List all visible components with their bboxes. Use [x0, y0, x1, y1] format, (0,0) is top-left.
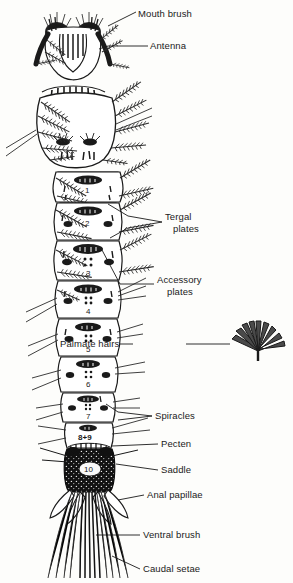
leader-mouth-brush [108, 12, 136, 26]
label-caudal-setae: Caudal setae [143, 563, 200, 574]
segment-number-8-9: 8+9 [78, 432, 92, 443]
label-antenna: Antenna [150, 40, 186, 51]
palmate-hair-detail [232, 321, 285, 361]
label-spiracles: Spiracles [155, 410, 195, 421]
label-palmate-hairs-plain: Palmate [60, 338, 98, 349]
label-tergal-plates: Tergal plates [165, 211, 199, 235]
thorax-group [6, 80, 152, 170]
palmate-setae-5 [117, 324, 143, 338]
label-palmate-hairs-bold: hairs [98, 338, 119, 349]
label-saddle: Saddle [161, 464, 191, 475]
label-tergal-plates-line1: Tergal [165, 211, 199, 223]
spiracle-setae [112, 418, 150, 434]
segment-number-5: 5 [86, 344, 91, 355]
leader-pecten [112, 444, 158, 446]
leader-saddle [116, 464, 158, 470]
label-pecten: Pecten [161, 438, 191, 449]
segment-number-6: 6 [86, 379, 91, 390]
label-ventral-brush: Ventral brush [143, 529, 200, 540]
antenna-right [98, 34, 130, 73]
segment-number-7: 7 [86, 411, 91, 422]
segment-number-10: 10 [84, 464, 93, 475]
segment-number-3: 3 [86, 268, 91, 279]
label-accessory-plates: Accessory plates [157, 274, 202, 298]
label-anal-papillae: Anal papillae [147, 489, 203, 500]
label-accessory-plates-line2: plates [157, 286, 202, 298]
abdomen-segment-8-9 [38, 418, 150, 451]
segment-number-1: 1 [85, 185, 90, 196]
label-accessory-plates-line1: Accessory [157, 274, 202, 286]
leader-anal-papillae [118, 495, 144, 500]
segment-number-4: 4 [86, 306, 91, 317]
label-mouth-brush: Mouth brush [138, 8, 192, 19]
palmate-setae-4 [118, 278, 146, 300]
segment-number-2: 2 [85, 218, 90, 229]
label-tergal-plates-line2: plates [165, 223, 199, 235]
